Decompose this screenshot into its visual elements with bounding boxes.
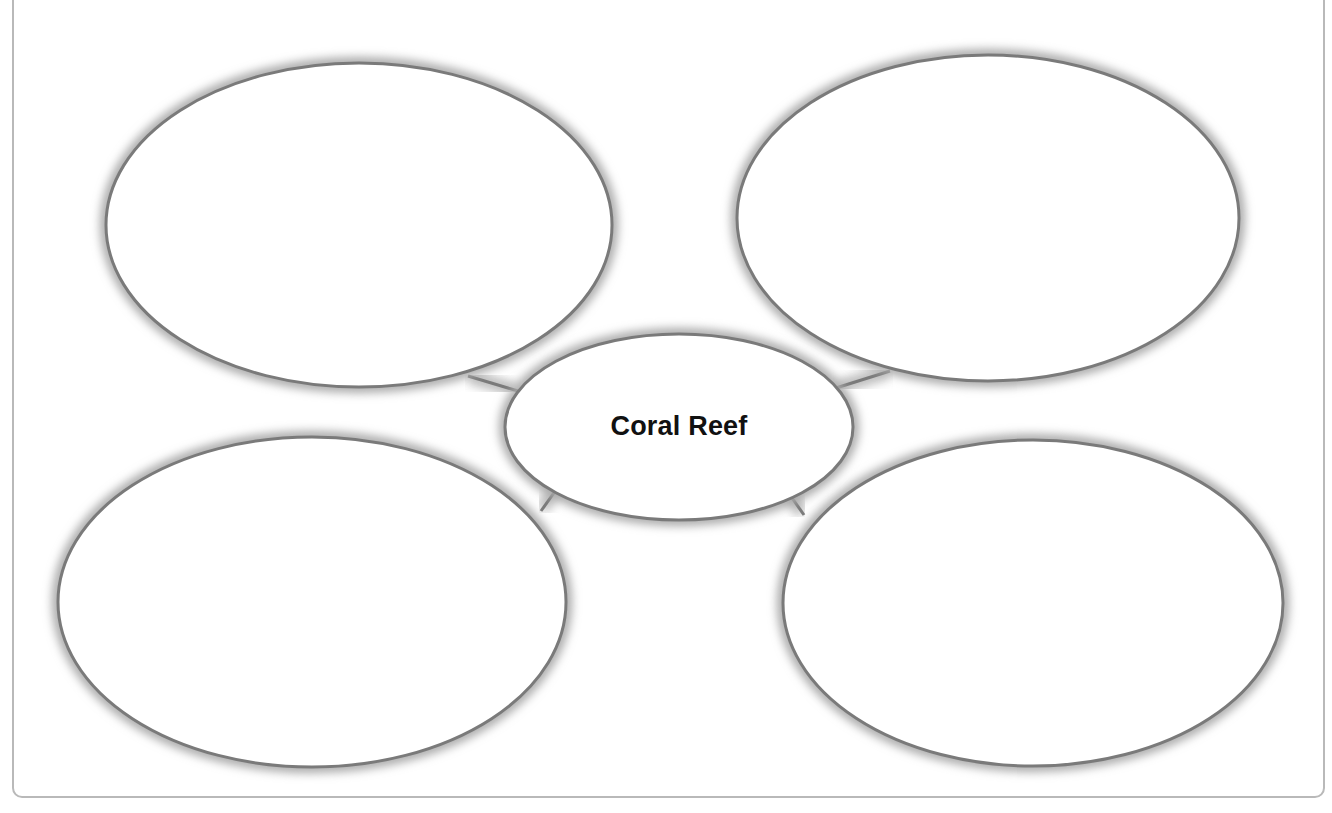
bubble-top-left-text <box>136 93 582 357</box>
bubble-bottom-left-text <box>88 467 536 737</box>
center-topic-label: Coral Reef <box>505 333 853 520</box>
bubble-bottom-right-text <box>813 470 1253 736</box>
bubble-top-right-text <box>767 85 1209 351</box>
